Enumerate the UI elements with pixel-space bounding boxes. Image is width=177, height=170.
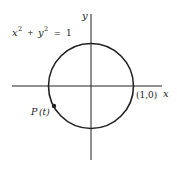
equation-plus: + [27, 28, 34, 37]
equation-equals: = [54, 29, 61, 38]
y-axis-label: y [81, 10, 88, 21]
equation-y-exp: 2 [44, 25, 48, 33]
point-1-0-label: (1,0) [136, 90, 157, 100]
equation-y: y [37, 27, 44, 38]
equation-x-exp: 2 [18, 25, 22, 33]
p-label: P [30, 106, 38, 117]
x-axis-label: x [163, 88, 169, 99]
point-p [52, 104, 56, 108]
unit-circle-diagram: x 2 + y 2 = 1 y x (1,0) P (t) [0, 0, 177, 170]
equation-rhs: 1 [66, 28, 72, 38]
p-arg-label: (t) [39, 107, 50, 117]
